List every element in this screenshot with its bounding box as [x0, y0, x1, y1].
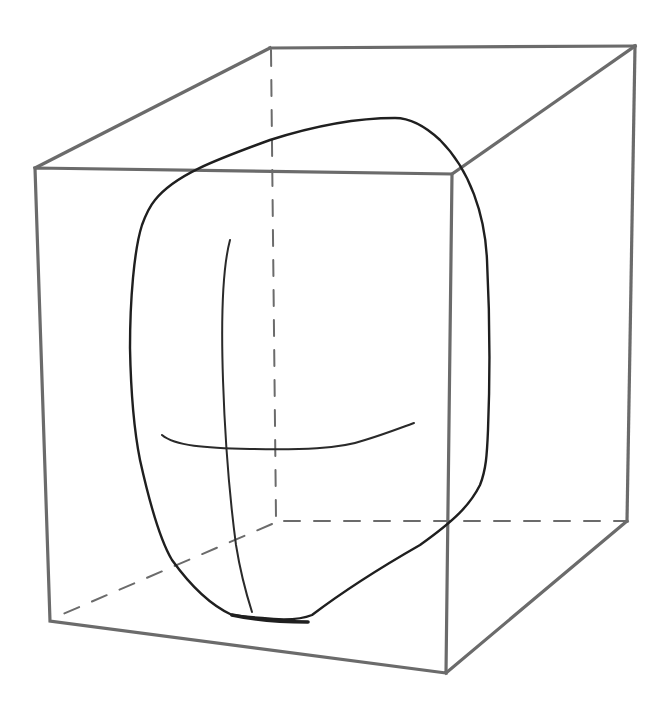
top-right-depth-edge [452, 46, 635, 174]
visible-box-edges [35, 46, 635, 673]
horizontal-brow-guide [162, 423, 414, 449]
back-left-vertical-edge [271, 50, 276, 518]
top-left-depth-edge [35, 48, 270, 168]
front-face [35, 168, 452, 673]
back-top-edge [270, 46, 635, 48]
bottom-right-depth-edge [446, 521, 627, 673]
hidden-box-edges [56, 50, 627, 617]
head-outline [130, 118, 489, 619]
back-right-edge [627, 46, 635, 521]
head-in-box-drawing [0, 0, 657, 716]
bottom-left-depth-edge [56, 524, 272, 617]
vertical-center-guide [222, 240, 252, 612]
